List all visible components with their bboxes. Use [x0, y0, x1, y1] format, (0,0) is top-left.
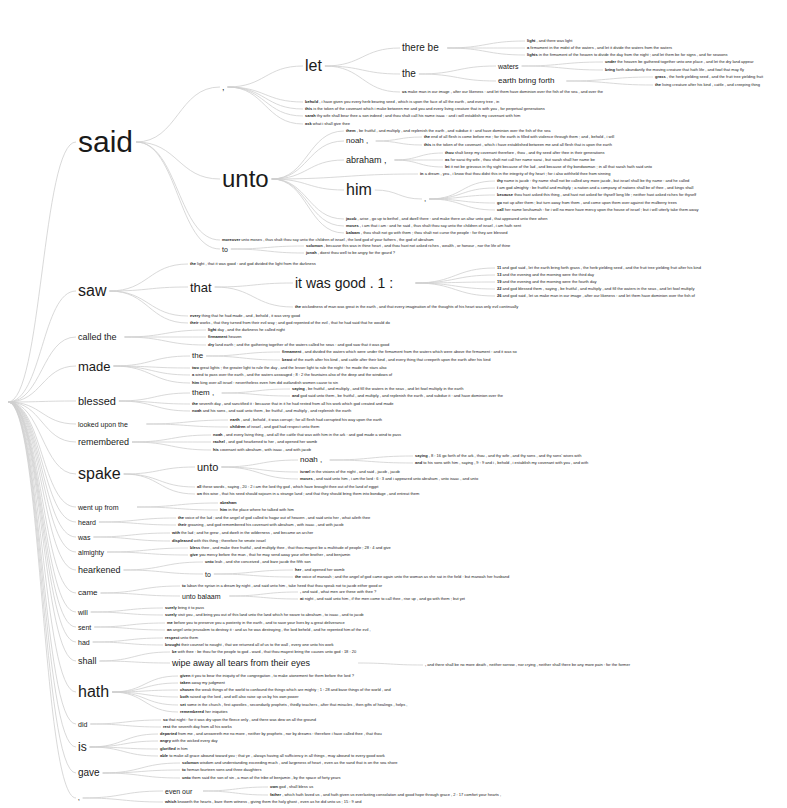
tree-leaf-phrase[interactable]: unto leah , and she conceived , and bare… — [205, 560, 311, 564]
tree-leaf-phrase[interactable]: him in the place where he talked with hi… — [220, 508, 294, 512]
tree-leaf-phrase[interactable]: go not up after them ; but turn away fro… — [497, 201, 677, 205]
tree-leaf-phrase[interactable]: departed from me , and answereth me no m… — [160, 732, 382, 736]
tree-branch-word[interactable]: the — [402, 69, 416, 79]
tree-branch-word[interactable]: was — [78, 534, 90, 541]
tree-leaf-phrase[interactable]: sarah thy wife shall bear thee a son ind… — [305, 114, 520, 118]
tree-leaf-phrase[interactable]: jacob , arise , go up to bethel , and dw… — [346, 217, 547, 221]
tree-leaf-phrase[interactable]: moses , and said unto him , i am the lor… — [300, 477, 478, 481]
tree-leaf-phrase[interactable]: under the heaven be gathered together un… — [605, 60, 754, 64]
tree-leaf-phrase[interactable]: light , and there was light — [527, 39, 572, 43]
tree-leaf-phrase[interactable]: at night , and said unto him , if the me… — [300, 597, 465, 601]
tree-leaf-phrase[interactable]: because thou hast asked this thing , and… — [497, 193, 696, 197]
tree-leaf-phrase[interactable]: in a dream , yea , i know that thou dids… — [420, 172, 611, 176]
tree-leaf-phrase[interactable]: a firmament in the midst of the waters ,… — [527, 46, 672, 50]
tree-branch-word[interactable]: there be — [402, 43, 439, 53]
tree-leaf-phrase[interactable]: her , and opened her womb — [295, 568, 344, 572]
tree-leaf-phrase[interactable]: jonah , doest thou well to be angry for … — [306, 251, 395, 255]
tree-leaf-phrase[interactable]: so that night : for it was dry upon the … — [163, 718, 316, 722]
tree-leaf-phrase[interactable]: let it not be grievous in thy sight beca… — [445, 165, 652, 169]
tree-leaf-phrase[interactable]: 13 and the evening and the morning were … — [497, 273, 594, 277]
tree-leaf-phrase[interactable]: the living creature after his kind , cat… — [655, 83, 760, 87]
tree-leaf-phrase[interactable]: remembered her iniquities — [180, 710, 228, 714]
tree-branch-word[interactable]: made — [78, 360, 111, 373]
tree-branch-word[interactable]: him — [346, 182, 372, 198]
tree-leaf-phrase[interactable]: rest the seventh day from all his works — [163, 725, 232, 729]
tree-leaf-phrase[interactable]: them , be fruitful , and multiply , and … — [346, 129, 550, 133]
tree-branch-word[interactable]: is — [78, 741, 87, 753]
tree-branch-word[interactable]: unto — [197, 462, 218, 473]
tree-leaf-phrase[interactable]: solomon wisdom and understanding exceedi… — [182, 761, 397, 765]
tree-leaf-phrase[interactable]: and god said unto them , be fruitful , a… — [292, 394, 503, 398]
tree-leaf-phrase[interactable]: to laban the syrian in a dream by night … — [182, 584, 382, 588]
tree-leaf-phrase[interactable]: children of israel , and god had respect… — [230, 425, 319, 429]
tree-leaf-phrase[interactable]: thou shalt keep my covenant therefore , … — [445, 151, 604, 155]
tree-leaf-phrase[interactable]: this is the token of the covenant , whic… — [424, 143, 612, 147]
tree-branch-word[interactable]: unto balaam — [182, 593, 221, 600]
tree-branch-word[interactable]: remembered — [78, 438, 129, 447]
tree-leaf-phrase[interactable]: him king over all israel : nevertheless … — [192, 381, 338, 385]
tree-leaf-phrase[interactable]: be with thee : be thou for the people to… — [172, 650, 356, 654]
tree-leaf-phrase[interactable]: i am god almighty : be fruitful and mult… — [497, 186, 693, 190]
tree-leaf-phrase[interactable]: the voice of the lad ; and the angel of … — [178, 516, 370, 520]
tree-leaf-phrase[interactable]: unto them said the son of sin , a man of… — [182, 776, 341, 780]
tree-branch-word[interactable]: called the — [78, 333, 117, 342]
tree-branch-word[interactable]: to — [222, 246, 228, 253]
tree-leaf-phrase[interactable]: , and said , what men are these with the… — [300, 590, 376, 594]
tree-branch-word[interactable]: let — [305, 58, 322, 74]
tree-branch-word[interactable]: noah , — [346, 137, 368, 145]
tree-branch-word[interactable]: unto — [222, 167, 269, 191]
tree-leaf-phrase[interactable]: beast of the earth after his kind , and … — [282, 358, 491, 362]
tree-leaf-phrase[interactable]: father , which hath loved us , and hath … — [270, 793, 501, 797]
tree-leaf-phrase[interactable]: angry with the wicked every day — [160, 739, 218, 743]
tree-leaf-phrase[interactable]: , — [78, 795, 80, 801]
tree-branch-word[interactable]: almighty — [78, 549, 104, 556]
tree-leaf-phrase[interactable]: to heman fourteen sons and three daughte… — [182, 768, 261, 772]
tree-branch-word[interactable]: went up from — [78, 504, 118, 511]
tree-branch-word[interactable]: heard — [78, 519, 96, 526]
tree-leaf-phrase[interactable]: brought their counsel to nought , that w… — [165, 643, 334, 647]
tree-leaf-phrase[interactable]: 11 and god said , let the earth bring fo… — [497, 266, 701, 270]
tree-leaf-phrase[interactable]: their groaning , and god remembered his … — [178, 523, 343, 527]
tree-branch-word[interactable]: the — [192, 352, 203, 360]
tree-leaf-phrase[interactable]: abraham — [220, 501, 237, 505]
tree-leaf-phrase[interactable]: every thing that he had made , and , beh… — [190, 314, 300, 318]
tree-branch-word[interactable]: noah , — [300, 456, 322, 464]
tree-branch-word[interactable]: spake — [78, 466, 121, 482]
tree-leaf-phrase[interactable]: 26 and god said , let us make man in our… — [497, 294, 695, 298]
tree-branch-word[interactable]: them , — [192, 389, 214, 397]
tree-leaf-phrase[interactable]: glorified in him — [160, 747, 188, 751]
tree-leaf-phrase[interactable]: the end of all flesh is come before me ;… — [424, 135, 614, 139]
tree-branch-word[interactable]: earth bring forth — [498, 77, 554, 85]
tree-leaf-phrase[interactable]: saying , 8 : 16 go forth of the ark , th… — [415, 454, 581, 458]
tree-leaf-phrase[interactable]: this is the token of the covenant which … — [305, 107, 545, 111]
tree-branch-word[interactable]: looked upon the — [78, 421, 128, 428]
tree-leaf-phrase[interactable]: their works , that they turned from thei… — [190, 321, 390, 325]
tree-leaf-phrase[interactable]: us make man in our image , after our lik… — [402, 90, 603, 94]
tree-leaf-phrase[interactable]: give you mercy before the man , that he … — [190, 553, 350, 557]
tree-leaf-phrase[interactable]: as for sarai thy wife , thou shalt not c… — [445, 158, 595, 162]
tree-leaf-phrase[interactable]: displeased with this thing ; therefore h… — [172, 539, 266, 543]
tree-leaf-phrase[interactable]: both raised up the lord , and will also … — [180, 695, 299, 699]
tree-branch-word[interactable]: wipe away all tears from their eyes — [172, 659, 310, 668]
tree-branch-word[interactable]: came — [78, 589, 98, 597]
tree-leaf-phrase[interactable]: , and there shall be no more death , nei… — [425, 663, 630, 667]
tree-leaf-phrase[interactable]: israel in the visions of the night , and… — [300, 470, 400, 474]
tree-branch-word[interactable]: abraham , — [346, 156, 387, 165]
tree-leaf-phrase[interactable]: solomon , because this was in thine hear… — [306, 244, 510, 248]
tree-branch-word[interactable]: , — [424, 195, 426, 203]
tree-branch-word[interactable]: , — [222, 83, 225, 92]
tree-branch-word[interactable]: saw — [78, 283, 106, 299]
tree-leaf-phrase[interactable]: taken away my judgment — [180, 681, 225, 685]
tree-branch-word[interactable]: even our — [165, 788, 192, 795]
tree-branch-word[interactable]: said — [78, 127, 133, 157]
tree-leaf-phrase[interactable]: chosen the weak things of the world to c… — [180, 688, 391, 692]
tree-leaf-phrase[interactable]: lights in the firmament of the heaven to… — [527, 53, 728, 57]
tree-leaf-phrase[interactable]: his covenant with abraham , with isaac ,… — [213, 448, 311, 452]
tree-leaf-phrase[interactable]: surely visit you , and bring you out of … — [165, 613, 364, 617]
tree-leaf-phrase[interactable]: the seventh day , and sanctified it : be… — [192, 402, 393, 406]
tree-leaf-phrase[interactable]: and to his sons with him , saying , 9 : … — [415, 461, 588, 465]
tree-leaf-phrase[interactable]: noah , and every living thing , and all … — [213, 433, 401, 437]
tree-leaf-phrase[interactable]: ask what i shall give thee — [305, 122, 350, 126]
tree-branch-word[interactable]: will — [78, 609, 88, 616]
tree-branch-word[interactable]: gave — [78, 768, 100, 778]
